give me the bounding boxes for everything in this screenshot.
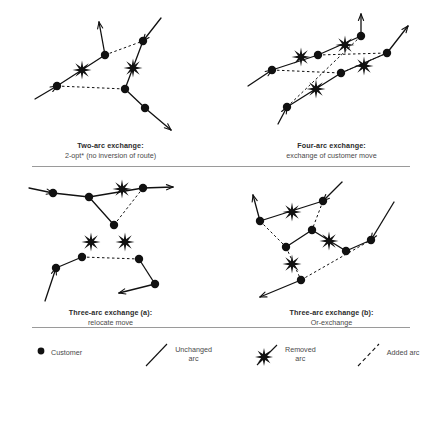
customer-node — [120, 85, 128, 93]
customer-node — [134, 255, 142, 263]
added-arc — [312, 201, 323, 230]
customer-node — [48, 189, 56, 197]
panel-four-arc-exchange: Four-arc exchange: exchange of customer … — [221, 0, 442, 160]
customer-node — [307, 226, 315, 234]
unchanged-arc — [45, 268, 56, 301]
customer-node — [356, 32, 364, 40]
caption-title: Three-arc exchange (a): — [69, 308, 152, 317]
removed-arc-starburst-icon — [119, 55, 146, 82]
customer-node — [296, 276, 304, 284]
customer-node — [100, 51, 108, 59]
customer-node — [341, 247, 349, 255]
removed-arc-starburst-icon — [77, 229, 104, 256]
caption-two-arc-exchange: Two-arc exchange: 2-opt* (no inversion o… — [65, 141, 156, 160]
removed-arc-starburst-icon — [278, 251, 305, 278]
unchanged-arc — [371, 202, 394, 240]
unchanged-arc — [143, 187, 173, 188]
legend-label: Unchanged arc — [175, 342, 212, 364]
three-arc-exchange-b-diagram — [242, 167, 422, 307]
filled-circle-icon — [36, 342, 46, 358]
customer-node — [267, 66, 275, 74]
removed-arc-starburst-icon — [350, 53, 377, 80]
customer-node — [318, 197, 326, 205]
customer-node — [382, 49, 390, 57]
panel-three-arc-exchange-b: Three-arc exchange (b): Or-exchange — [221, 167, 442, 327]
three-arc-exchange-a-diagram — [21, 167, 201, 307]
starburst-line-icon — [254, 342, 280, 368]
customer-node — [336, 69, 344, 77]
added-arc — [105, 41, 143, 55]
panel-two-arc-exchange: Two-arc exchange: 2-opt* (no inversion o… — [0, 0, 221, 160]
customer-node — [138, 184, 146, 192]
customer-node — [282, 103, 290, 111]
legend-label: Customer — [51, 342, 82, 357]
caption-four-arc-exchange: Four-arc exchange: exchange of customer … — [286, 141, 376, 160]
caption-three-arc-exchange-b: Three-arc exchange (b): Or-exchange — [290, 308, 374, 327]
four-arc-exchange-diagram — [242, 0, 422, 140]
neighborhood-operators-figure: Two-arc exchange: 2-opt* (no inversion o… — [0, 0, 442, 430]
customer-node — [150, 280, 158, 288]
figure-legend: Customer Unchanged arc Removed arc Added — [0, 328, 442, 368]
panels-row-top: Two-arc exchange: 2-opt* (no inversion o… — [0, 0, 442, 160]
legend-item-customer: Customer — [36, 342, 82, 358]
removed-arc-starburst-icon — [287, 44, 314, 71]
removed-arc-starburst-icon — [68, 57, 95, 84]
caption-three-arc-exchange-a: Three-arc exchange (a): relocate move — [69, 308, 152, 327]
removed-arc-starburst-icon — [315, 228, 342, 255]
caption-subtitle: Or-exchange — [290, 318, 374, 327]
added-arc — [318, 53, 387, 55]
legend-label: Removed arc — [285, 342, 316, 364]
solid-line-icon — [144, 342, 170, 368]
added-arc — [272, 70, 341, 73]
panels-row-bottom: Three-arc exchange (a): relocate move Th… — [0, 167, 442, 327]
removed-arc-starburst-icon — [278, 199, 305, 226]
customer-node — [366, 236, 374, 244]
legend-item-unchanged-arc: Unchanged arc — [144, 342, 212, 368]
removed-arc-starburst-icon — [108, 176, 135, 203]
customer-node — [281, 243, 289, 251]
panel-three-arc-exchange-a: Three-arc exchange (a): relocate move — [0, 167, 221, 327]
caption-title: Two-arc exchange: — [65, 141, 156, 150]
added-arc — [82, 257, 139, 259]
added-arc — [57, 86, 125, 89]
unchanged-arc — [286, 230, 312, 247]
unchanged-arc — [139, 259, 155, 284]
legend-label: Added arc — [387, 342, 420, 357]
customer-node — [52, 82, 60, 90]
unchanged-arc — [145, 108, 171, 130]
removed-arc-starburst-icon — [111, 229, 138, 256]
added-arc — [260, 221, 286, 247]
customer-node — [138, 37, 146, 45]
customer-node — [109, 221, 117, 229]
unchanged-arc — [53, 193, 89, 197]
unchanged-arc — [56, 257, 82, 268]
unchanged-arc — [143, 18, 161, 41]
unchanged-arc — [89, 197, 114, 225]
caption-subtitle: exchange of customer move — [286, 151, 376, 160]
customer-node — [255, 217, 263, 225]
legend-item-removed-arc: Removed arc — [254, 342, 316, 368]
unchanged-arc — [248, 70, 272, 86]
two-arc-exchange-diagram — [21, 0, 201, 140]
caption-subtitle: relocate move — [69, 318, 152, 327]
unchanged-arc — [260, 280, 301, 297]
unchanged-arc — [387, 26, 408, 53]
dashed-line-icon — [356, 342, 382, 368]
customer-node — [51, 264, 59, 272]
added-arc — [301, 240, 371, 280]
caption-title: Three-arc exchange (b): — [290, 308, 374, 317]
caption-subtitle: 2-opt* (no inversion of route) — [65, 151, 156, 160]
caption-title: Four-arc exchange: — [286, 141, 376, 150]
customer-node — [84, 193, 92, 201]
customer-node — [77, 253, 85, 261]
customer-node — [313, 51, 321, 59]
removed-arc-starburst-icon — [302, 76, 329, 103]
legend-item-added-arc: Added arc — [356, 342, 420, 368]
customer-node — [140, 104, 148, 112]
